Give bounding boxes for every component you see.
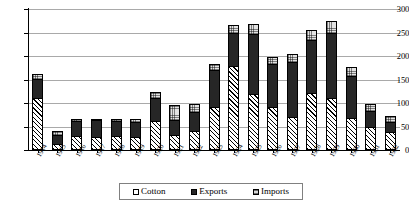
legend-swatch-icon bbox=[253, 189, 259, 195]
bar-column[interactable] bbox=[150, 92, 161, 150]
y-axis-tick-mark bbox=[24, 9, 28, 10]
bar-segment-exports[interactable] bbox=[169, 120, 180, 135]
bar-segment-exports[interactable] bbox=[385, 122, 396, 132]
bar-segment-exports[interactable] bbox=[326, 33, 337, 99]
y-axis-tick-mark bbox=[24, 56, 28, 57]
y-axis-tick-label: 200 bbox=[385, 52, 409, 61]
bar-segment-imports[interactable] bbox=[267, 57, 278, 64]
bar-segment-exports[interactable] bbox=[71, 121, 82, 136]
bar-column[interactable] bbox=[248, 24, 259, 150]
legend-label: Exports bbox=[199, 187, 227, 196]
bar-column[interactable] bbox=[346, 67, 357, 150]
bar-column[interactable] bbox=[326, 21, 337, 150]
bar-segment-imports[interactable] bbox=[306, 30, 317, 40]
bar-column[interactable] bbox=[32, 74, 43, 150]
bar-segment-cotton[interactable] bbox=[326, 98, 337, 150]
bar-segment-exports[interactable] bbox=[189, 112, 200, 131]
y-axis-line bbox=[28, 8, 29, 151]
y-axis-tick-mark bbox=[24, 103, 28, 104]
bar-segment-imports[interactable] bbox=[326, 21, 337, 33]
y-axis-tick-label: 100 bbox=[385, 99, 409, 108]
legend-entry-imports[interactable]: Imports bbox=[253, 187, 289, 196]
bar-segment-exports[interactable] bbox=[150, 98, 161, 121]
bar-segment-exports[interactable] bbox=[130, 122, 141, 137]
gridline bbox=[28, 9, 400, 10]
bar-segment-exports[interactable] bbox=[306, 40, 317, 93]
bar-segment-cotton[interactable] bbox=[32, 98, 43, 150]
bar-segment-exports[interactable] bbox=[32, 79, 43, 99]
bar-segment-exports[interactable] bbox=[228, 33, 239, 66]
gridline bbox=[28, 56, 400, 57]
legend-entry-exports[interactable]: Exports bbox=[191, 187, 227, 196]
bar-segment-exports[interactable] bbox=[209, 70, 220, 107]
bar-segment-imports[interactable] bbox=[228, 25, 239, 33]
legend-entry-cotton[interactable]: Cotton bbox=[133, 187, 166, 196]
y-axis-tick-mark bbox=[24, 127, 28, 128]
bar-segment-exports[interactable] bbox=[111, 121, 122, 136]
bar-segment-exports[interactable] bbox=[248, 34, 259, 93]
bar-segment-exports[interactable] bbox=[346, 76, 357, 118]
bar-segment-imports[interactable] bbox=[248, 24, 259, 34]
legend-label: Cotton bbox=[141, 187, 166, 196]
bar-segment-cotton[interactable] bbox=[248, 94, 259, 150]
legend-label: Imports bbox=[261, 187, 289, 196]
bar-column[interactable] bbox=[209, 64, 220, 150]
stacked-bar-chart: 050100150200250300 191419151916191719181… bbox=[0, 0, 409, 207]
bar-segment-imports[interactable] bbox=[189, 104, 200, 112]
bar-segment-exports[interactable] bbox=[365, 111, 376, 126]
gridline bbox=[28, 33, 400, 34]
y-axis-tick-mark bbox=[24, 33, 28, 34]
bar-segment-cotton[interactable] bbox=[228, 66, 239, 150]
bar-segment-imports[interactable] bbox=[346, 67, 357, 75]
bar-segment-exports[interactable] bbox=[287, 62, 298, 117]
bar-column[interactable] bbox=[267, 57, 278, 150]
y-axis-tick-label: 150 bbox=[385, 76, 409, 85]
bar-segment-imports[interactable] bbox=[150, 92, 161, 99]
bar-segment-imports[interactable] bbox=[287, 54, 298, 62]
bar-segment-exports[interactable] bbox=[267, 64, 278, 107]
legend-swatch-icon bbox=[133, 189, 139, 195]
bar-segment-imports[interactable] bbox=[169, 105, 180, 120]
y-axis-tick-mark bbox=[24, 80, 28, 81]
bar-column[interactable] bbox=[228, 25, 239, 150]
y-axis-tick-mark bbox=[24, 150, 28, 151]
chart-legend: CottonExportsImports bbox=[119, 183, 303, 200]
bar-segment-exports[interactable] bbox=[91, 120, 102, 136]
legend-swatch-icon bbox=[191, 189, 197, 195]
bar-segment-imports[interactable] bbox=[209, 64, 220, 71]
y-axis-tick-label: 250 bbox=[385, 29, 409, 38]
bar-column[interactable] bbox=[287, 54, 298, 150]
bar-column[interactable] bbox=[306, 30, 317, 150]
y-axis-tick-label: 300 bbox=[385, 5, 409, 14]
bar-segment-cotton[interactable] bbox=[306, 93, 317, 150]
bar-segment-imports[interactable] bbox=[365, 104, 376, 112]
